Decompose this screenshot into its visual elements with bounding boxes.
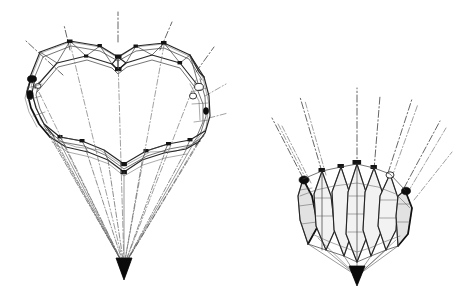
paper-background <box>0 0 465 297</box>
technical-drawing-canvas <box>0 0 465 297</box>
